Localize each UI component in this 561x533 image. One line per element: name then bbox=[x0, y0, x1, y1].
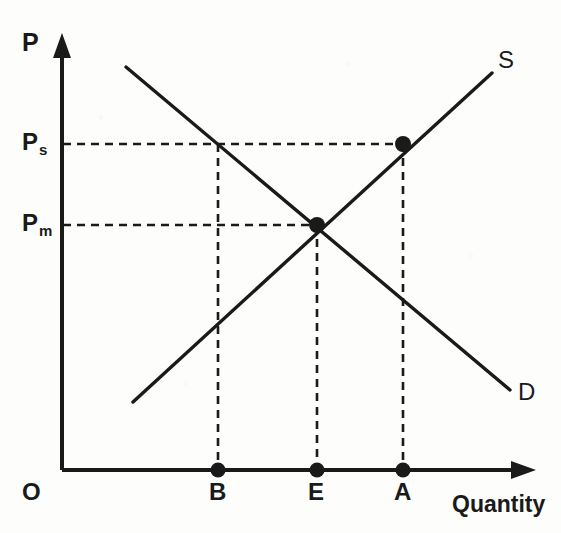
y-axis-title: P bbox=[22, 30, 39, 55]
point-supply-at-ps bbox=[395, 136, 411, 152]
price-label-pm-base: P bbox=[22, 209, 38, 236]
price-label-ps-base: P bbox=[22, 128, 38, 155]
x-tick-label-e: E bbox=[308, 480, 324, 504]
origin-label: O bbox=[22, 480, 41, 504]
price-label-pm-sub: m bbox=[39, 222, 52, 239]
axis-dot-b bbox=[211, 463, 226, 478]
plot-canvas bbox=[0, 0, 561, 533]
price-label-ps-sub: s bbox=[39, 141, 47, 158]
guide-lines bbox=[63, 144, 403, 470]
supply-demand-diagram: P Quantity O Ps Pm B E A S D bbox=[0, 0, 561, 533]
y-axis-arrowhead bbox=[53, 33, 71, 58]
x-axis-arrowhead bbox=[511, 461, 536, 479]
supply-curve bbox=[133, 73, 492, 402]
demand-curve-label: D bbox=[518, 380, 535, 404]
price-label-ps: Ps bbox=[22, 130, 46, 154]
x-axis-title: Quantity bbox=[452, 493, 545, 516]
x-tick-label-b: B bbox=[209, 480, 226, 504]
price-label-pm: Pm bbox=[22, 211, 51, 235]
axis-dot-e bbox=[310, 463, 325, 478]
point-markers bbox=[211, 136, 412, 478]
axis-dot-a bbox=[396, 463, 411, 478]
point-equilibrium bbox=[309, 217, 325, 233]
x-tick-label-a: A bbox=[394, 480, 411, 504]
supply-curve-label: S bbox=[498, 48, 514, 72]
